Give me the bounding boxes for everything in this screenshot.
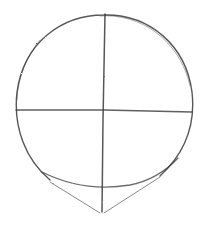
chin-line-right (104, 177, 160, 213)
horizontal-center-line (16, 110, 192, 112)
vertical-center-line (102, 14, 105, 212)
jaw-arc (42, 158, 178, 187)
head-construction-sketch (0, 0, 210, 227)
